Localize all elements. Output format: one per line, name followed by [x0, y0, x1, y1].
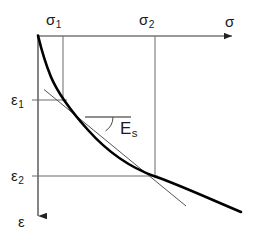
stress-strain-curve [38, 36, 241, 213]
sigma-2-label: σ2 [139, 12, 154, 30]
epsilon-2-subscript: 2 [18, 175, 24, 186]
epsilon-2-label: ε2 [11, 168, 24, 186]
secant-line [44, 90, 186, 207]
angle-arc-icon [106, 117, 114, 131]
epsilon-1-label: ε1 [11, 92, 24, 110]
sigma-1-label: σ1 [46, 12, 61, 30]
sigma-1-symbol: σ [46, 11, 55, 28]
sigma-axis-label: σ [225, 14, 234, 29]
sigma-axis-symbol: σ [225, 13, 234, 30]
secant-modulus-label: Es [120, 120, 138, 140]
epsilon-2-symbol: ε [11, 167, 18, 184]
secant-modulus-subscript: s [132, 127, 138, 139]
sigma-2-subscript: 2 [149, 19, 155, 30]
epsilon-axis-symbol: ε [18, 213, 25, 230]
sigma-1-subscript: 1 [56, 19, 62, 30]
sigma-2-symbol: σ [139, 11, 148, 28]
secant-modulus-symbol: E [120, 119, 131, 138]
epsilon-1-symbol: ε [11, 91, 18, 108]
epsilon-1-subscript: 1 [18, 99, 24, 110]
epsilon-axis-label: ε [18, 214, 25, 229]
